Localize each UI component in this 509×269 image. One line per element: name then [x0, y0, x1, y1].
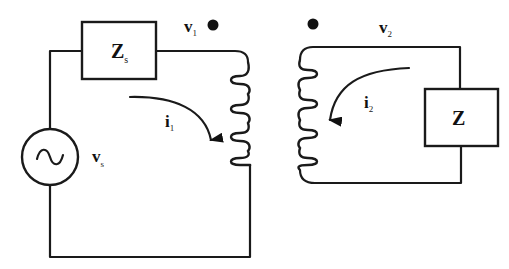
load-impedance-label: Z — [452, 107, 465, 129]
primary-circuit: Zs vs v1 i1 — [22, 17, 250, 257]
source-voltage-label: vs — [92, 147, 105, 169]
primary-left-wire — [50, 51, 82, 129]
transformer-circuit-diagram: Zs vs v1 i1 v2 — [0, 0, 509, 269]
primary-current-label: i1 — [165, 112, 174, 133]
secondary-voltage-label: v2 — [379, 18, 392, 39]
primary-current-arrow — [130, 97, 211, 140]
secondary-coil — [298, 60, 317, 170]
secondary-circuit: v2 i2 Z — [298, 18, 498, 183]
primary-bottom-wire — [50, 165, 250, 257]
primary-coil — [231, 62, 250, 165]
primary-polarity-dot — [208, 20, 219, 31]
secondary-polarity-dot — [308, 19, 319, 30]
secondary-current-label: i2 — [364, 93, 373, 114]
primary-voltage-label: v1 — [184, 17, 197, 38]
secondary-top-wire — [300, 47, 460, 89]
secondary-bottom-wire — [300, 146, 461, 183]
primary-top-wire — [156, 51, 248, 62]
